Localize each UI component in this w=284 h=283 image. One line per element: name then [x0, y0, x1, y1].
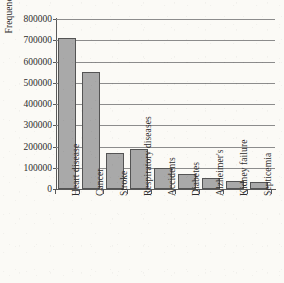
y-axis-tick-label: 700000 — [24, 35, 53, 45]
y-axis-title: Frequencyf — [4, 0, 18, 66]
y-axis-tick-label: 0 — [47, 184, 52, 194]
y-axis-tick-label: 500000 — [24, 78, 53, 88]
y-axis-tick-mark — [53, 19, 56, 20]
y-axis-tick-mark — [53, 168, 56, 169]
y-axis-tick-label: 100000 — [24, 163, 53, 173]
x-axis-tick-label: Diabetes — [191, 162, 201, 196]
y-axis-tick-mark — [53, 125, 56, 126]
x-axis-tick-label: Cancer — [95, 169, 105, 197]
x-axis-tick-label: Septicemia — [263, 153, 273, 196]
y-axis-tick-label: 300000 — [24, 120, 53, 130]
x-axis-tick-label: Accidents — [167, 157, 177, 196]
x-axis-tick-label: Stroke — [119, 171, 129, 196]
bar-chart-figure: Frequencyf 01000002000003000004000005000… — [0, 0, 284, 283]
x-axis-tick-label: Alzheimer's — [215, 149, 225, 196]
y-axis-tick-label: 400000 — [24, 99, 53, 109]
y-axis-tick-mark — [53, 147, 56, 148]
x-axis-tick-label: Respiratory diseases — [143, 116, 153, 196]
y-axis-tick-label: 800000 — [24, 14, 53, 24]
x-axis-tick-mark — [55, 190, 56, 194]
x-axis-tick-label: Kidney failure — [239, 139, 249, 196]
gridline — [56, 62, 275, 63]
gridline — [56, 40, 275, 41]
y-axis-tick-mark — [53, 40, 56, 41]
y-axis-title-text: Frequency — [4, 0, 14, 33]
y-axis-tick-mark — [53, 83, 56, 84]
y-axis-tick-label: 600000 — [24, 57, 53, 67]
y-axis-tick-label: 200000 — [24, 142, 53, 152]
y-axis-tick-mark — [53, 104, 56, 105]
gridline — [56, 19, 275, 20]
x-axis-tick-label: Heart disease — [71, 144, 81, 196]
y-axis-tick-mark — [53, 62, 56, 63]
